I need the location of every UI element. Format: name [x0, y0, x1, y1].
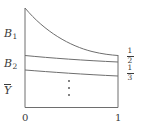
figure-container: B1 B2 Y 1 2 1 3 0 1 — [0, 0, 145, 132]
ellipsis-dot — [68, 94, 70, 96]
curve-b2-ybar-boundary — [25, 70, 118, 76]
x-tick-label-left: 0 — [22, 113, 28, 123]
band-label-y-bar-text: Y — [4, 84, 11, 97]
ellipsis-dot — [68, 87, 70, 89]
fraction-denominator: 3 — [123, 74, 137, 82]
band-label-b2-text: B — [4, 57, 12, 70]
vertical-ellipsis-icon — [68, 80, 72, 100]
fraction-numerator: 1 — [123, 64, 137, 72]
curve-b1-b2-boundary — [25, 56, 118, 63]
ellipsis-dot — [68, 80, 70, 82]
band-label-y-bar: Y — [4, 84, 11, 97]
band-label-b2-subscript: 2 — [12, 62, 17, 71]
right-value-one-third: 1 3 — [123, 64, 137, 82]
band-label-b2: B2 — [4, 58, 17, 70]
band-label-b1: B1 — [4, 28, 17, 40]
x-tick-label-right: 1 — [115, 113, 121, 123]
curve-b1-top — [25, 8, 118, 56]
band-label-b1-subscript: 1 — [12, 32, 17, 41]
band-label-b1-text: B — [4, 27, 12, 40]
fraction-numerator: 1 — [123, 47, 137, 55]
